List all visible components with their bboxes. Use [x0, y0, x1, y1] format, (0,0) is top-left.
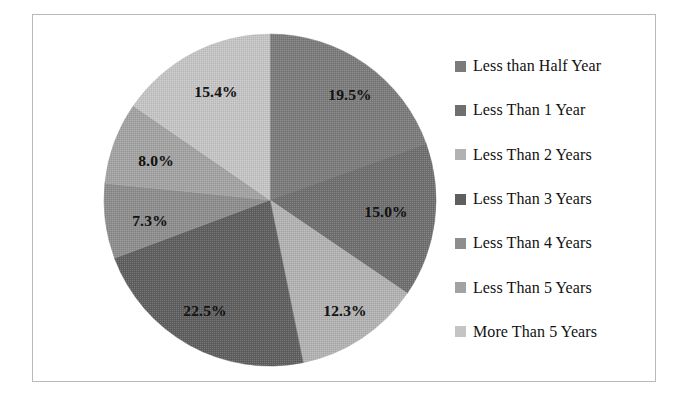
legend-swatch-icon — [455, 326, 466, 337]
legend-swatch-icon — [455, 105, 466, 116]
pie-slice-value-label: 12.3% — [323, 302, 367, 320]
legend-item[interactable]: Less Than 2 Years — [455, 133, 650, 177]
legend-swatch-icon — [455, 149, 466, 160]
pie-chart-figure: 19.5%15.0%12.3%22.5%7.3%8.0%15.4% Less t… — [0, 0, 684, 398]
legend-item-label: Less Than 5 Years — [473, 280, 592, 296]
legend-item[interactable]: Less than Half Year — [455, 44, 650, 88]
pie-slice-value-label: 15.0% — [364, 203, 408, 221]
legend-item[interactable]: Less Than 3 Years — [455, 177, 650, 221]
legend-item-label: Less Than 2 Years — [473, 147, 592, 163]
pie-slice-value-label: 22.5% — [183, 302, 227, 320]
legend-swatch-icon — [455, 61, 466, 72]
legend-item-label: Less than Half Year — [473, 58, 601, 74]
pie-slice-value-label: 15.4% — [194, 83, 238, 101]
chart-legend: Less than Half YearLess Than 1 YearLess … — [455, 44, 650, 356]
legend-item[interactable]: Less Than 4 Years — [455, 221, 650, 265]
legend-item[interactable]: Less Than 5 Years — [455, 265, 650, 309]
legend-item[interactable]: More Than 5 Years — [455, 310, 650, 354]
legend-swatch-icon — [455, 194, 466, 205]
pie-chart-graphic — [100, 26, 445, 376]
pie-texture-overlay — [104, 34, 436, 366]
legend-item-label: More Than 5 Years — [473, 324, 597, 340]
legend-swatch-icon — [455, 238, 466, 249]
pie-slice-value-label: 19.5% — [328, 86, 372, 104]
legend-item-label: Less Than 4 Years — [473, 235, 592, 251]
legend-item-label: Less Than 3 Years — [473, 191, 592, 207]
legend-item[interactable]: Less Than 1 Year — [455, 88, 650, 132]
legend-item-label: Less Than 1 Year — [473, 102, 585, 118]
pie-slice-value-label: 8.0% — [138, 152, 174, 170]
pie-slice-value-label: 7.3% — [132, 212, 168, 230]
legend-swatch-icon — [455, 282, 466, 293]
